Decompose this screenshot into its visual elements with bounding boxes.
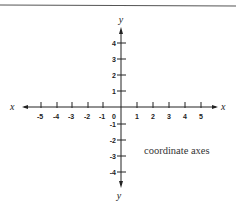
x-tick-label: -3 xyxy=(68,113,74,120)
x-axis-left-arrow-icon xyxy=(22,105,28,109)
y-tick-label: 4 xyxy=(112,40,116,47)
x-tick-label: 5 xyxy=(199,113,203,120)
y-tick-label: -2 xyxy=(110,137,116,144)
y-axis-up-arrow-icon xyxy=(119,27,123,34)
x-tick-label: 4 xyxy=(183,113,187,120)
x-tick-label: -4 xyxy=(53,113,59,120)
coordinate-axes-diagram: x x -5 -4 -3 -2 -1 0 1 2 3 4 5 xyxy=(0,0,236,212)
x-tick-label: 2 xyxy=(151,113,155,120)
x-axis-label-right: x xyxy=(220,101,226,112)
x-tick-label: 3 xyxy=(167,113,171,120)
y-axis-label-bottom: y xyxy=(116,190,122,201)
x-tick-label: 1 xyxy=(135,113,139,120)
y-tick-label: -4 xyxy=(110,169,116,176)
y-tick-label: -1 xyxy=(110,121,116,128)
top-rule xyxy=(0,5,236,6)
y-axis-down-arrow-icon xyxy=(119,181,123,188)
x-axis-label-left: x xyxy=(9,101,15,112)
x-axis-right-arrow-icon xyxy=(212,105,218,109)
x-tick-label: -2 xyxy=(84,113,90,120)
x-tick-label: -1 xyxy=(99,113,105,120)
y-tick-label: 1 xyxy=(112,88,116,95)
x-tick-label-origin: 0 xyxy=(112,113,116,120)
figure-caption: coordinate axes xyxy=(144,145,210,156)
x-tick-label: -5 xyxy=(37,113,43,120)
x-axis: x x -5 -4 -3 -2 -1 0 1 2 3 4 5 xyxy=(9,101,226,120)
y-tick-label: 2 xyxy=(112,72,116,79)
y-axis-label-top: y xyxy=(118,14,124,25)
y-tick-label: -3 xyxy=(110,153,116,160)
y-tick-label: 3 xyxy=(112,56,116,63)
